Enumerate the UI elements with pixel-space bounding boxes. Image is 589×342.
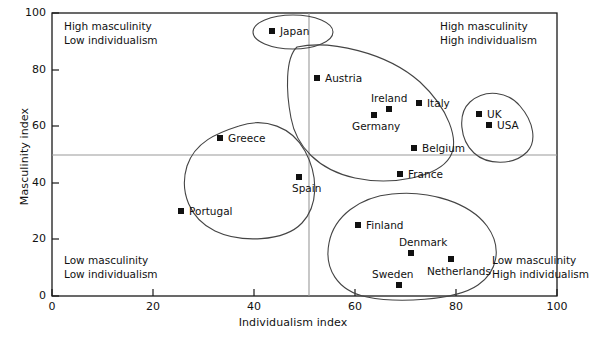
marker-belgium: [411, 145, 417, 151]
annotation-top-left-line1: High masculinity: [64, 20, 158, 34]
annotation-bottom-right-line1: Low masculinity: [492, 254, 589, 268]
marker-greece: [217, 135, 223, 141]
y-tick-label-100: 100: [14, 6, 46, 19]
data-markers: [178, 28, 492, 288]
point-label-netherlands: Netherlands: [427, 265, 491, 277]
y-tick-label-0: 0: [14, 289, 46, 302]
point-label-austria: Austria: [325, 72, 362, 84]
marker-netherlands: [448, 256, 454, 262]
marker-spain: [296, 174, 302, 180]
marker-austria: [314, 75, 320, 81]
marker-japan: [269, 28, 275, 34]
x-tick-label-20: 20: [138, 300, 168, 313]
point-label-japan: Japan: [280, 25, 309, 37]
x-axis-ticks: [52, 289, 557, 296]
annotation-bottom-left-line2: Low individualism: [64, 268, 158, 282]
marker-usa: [486, 122, 492, 128]
annotation-top-right: High masculinity High individualism: [440, 20, 537, 47]
point-label-ireland: Ireland: [371, 92, 407, 104]
point-label-greece: Greece: [228, 132, 265, 144]
point-label-belgium: Belgium: [422, 142, 465, 154]
annotation-bottom-left-line1: Low masculinity: [64, 254, 158, 268]
cluster-outline-western-europe: [287, 45, 453, 181]
x-tick-label-80: 80: [441, 300, 471, 313]
marker-portugal: [178, 208, 184, 214]
marker-sweden: [396, 282, 402, 288]
annotation-top-right-line1: High masculinity: [440, 20, 537, 34]
point-label-france: France: [408, 168, 443, 180]
annotation-top-right-line2: High individualism: [440, 34, 537, 48]
x-tick-label-100: 100: [542, 300, 572, 313]
point-label-germany: Germany: [352, 120, 400, 132]
point-label-denmark: Denmark: [399, 236, 447, 248]
marker-finland: [355, 222, 361, 228]
annotation-bottom-right-line2: High individualism: [492, 268, 589, 282]
y-axis-title: Masculinity index: [18, 67, 31, 247]
annotation-bottom-left: Low masculinity Low individualism: [64, 254, 158, 281]
point-label-finland: Finland: [366, 219, 404, 231]
marker-uk: [476, 111, 482, 117]
marker-germany: [371, 112, 377, 118]
point-label-portugal: Portugal: [189, 205, 233, 217]
point-label-spain: Spain: [292, 182, 321, 194]
x-tick-label-60: 60: [340, 300, 370, 313]
marker-france: [397, 171, 403, 177]
point-label-italy: Italy: [427, 97, 450, 109]
marker-italy: [416, 100, 422, 106]
x-axis-title: Individualism index: [0, 316, 586, 329]
annotation-top-left: High masculinity Low individualism: [64, 20, 158, 47]
point-label-usa: USA: [497, 119, 519, 131]
marker-denmark: [408, 250, 414, 256]
marker-ireland: [386, 106, 392, 112]
annotation-bottom-right: Low masculinity High individualism: [492, 254, 589, 281]
annotation-top-left-line2: Low individualism: [64, 34, 158, 48]
x-tick-label-40: 40: [239, 300, 269, 313]
point-label-sweden: Sweden: [372, 268, 414, 280]
